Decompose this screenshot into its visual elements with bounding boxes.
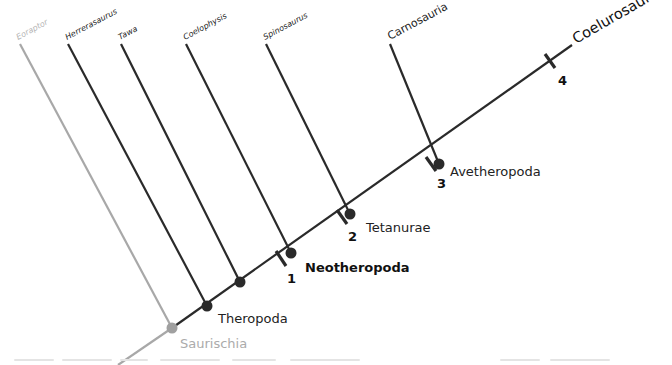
cladogram: 1 2 3 4 Eoraptor Herrerasaurus Tawa Coel… bbox=[0, 0, 672, 365]
clade-label-theropoda: Theropoda bbox=[217, 311, 288, 326]
clade-label-avetheropoda: Avetheropoda bbox=[450, 164, 541, 179]
tick-1 bbox=[276, 251, 286, 266]
node-theropoda bbox=[202, 301, 213, 312]
tick-number-2: 2 bbox=[348, 229, 357, 244]
taxon-label-herrerasaurus: Herrerasaurus bbox=[64, 7, 119, 42]
taxon-label-carnosauria: Carnosauria bbox=[385, 0, 450, 43]
node-tetanurae bbox=[345, 209, 356, 220]
branch-coelophysis bbox=[186, 44, 291, 253]
node-saurischia bbox=[167, 323, 178, 334]
taxon-label-tawa: Tawa bbox=[117, 24, 139, 42]
clade-label-tetanurae: Tetanurae bbox=[365, 220, 431, 235]
cropped-caption-strip bbox=[0, 356, 672, 365]
branch-spinosaurus bbox=[266, 44, 350, 214]
taxon-label-eoraptor: Eoraptor bbox=[15, 17, 50, 41]
tick-number-4: 4 bbox=[558, 73, 567, 88]
tick-number-3: 3 bbox=[437, 176, 446, 191]
taxon-label-coelophysis: Coelophysis bbox=[182, 11, 229, 41]
branch-carnosauria bbox=[390, 44, 439, 164]
taxon-label-spinosaurus: Spinosaurus bbox=[262, 11, 310, 42]
node-tawa-split bbox=[235, 277, 246, 288]
taxon-label-coelurosauria: Coelurosauria bbox=[570, 0, 665, 47]
branch-main-trunk bbox=[172, 45, 572, 328]
tick-4 bbox=[545, 54, 555, 68]
clade-label-saurischia: Saurischia bbox=[180, 336, 247, 351]
node-neotheropoda bbox=[286, 248, 297, 259]
clade-label-neotheropoda: Neotheropoda bbox=[305, 260, 410, 275]
branch-tawa bbox=[121, 44, 240, 282]
tick-number-1: 1 bbox=[287, 271, 296, 286]
branch-eoraptor bbox=[20, 44, 172, 328]
